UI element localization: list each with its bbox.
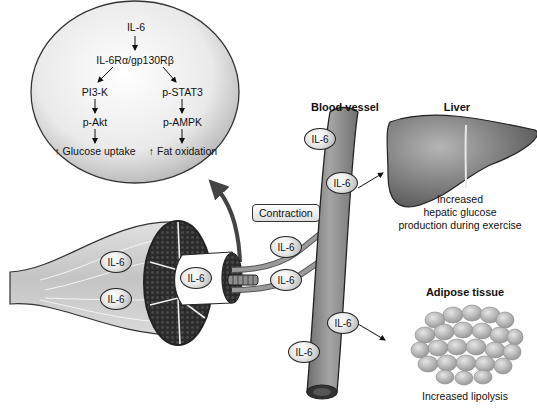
il6-vessel-1: IL-6 bbox=[304, 128, 336, 150]
il6-vessel-2: IL-6 bbox=[326, 172, 358, 194]
arrow-to-adipose bbox=[358, 324, 385, 340]
signal-pampk: p-AMPK bbox=[155, 116, 210, 128]
signal-pakt: p-Akt bbox=[70, 116, 120, 128]
signal-pstat3: p-STAT3 bbox=[155, 86, 210, 98]
signal-il6: IL-6 bbox=[121, 21, 151, 33]
liver-effect-3: production during exercise bbox=[390, 219, 530, 231]
adipose-effect: Increased lipolysis bbox=[410, 390, 520, 402]
liver-effect-2: hepatic glucose bbox=[410, 206, 510, 218]
blood-vessel-label: Blood vessel bbox=[305, 101, 385, 113]
il6-fiber: IL-6 bbox=[180, 267, 212, 289]
signal-glucose-uptake: ↑ Glucose uptake bbox=[50, 145, 140, 157]
contraction-label: Contraction bbox=[252, 204, 320, 222]
liver-effect-1: Increased bbox=[420, 193, 500, 205]
il6-vessel-3: IL-6 bbox=[327, 312, 359, 334]
arrow-to-liver bbox=[358, 173, 383, 188]
liver-label: Liver bbox=[437, 101, 477, 113]
signal-pi3k: PI3-K bbox=[70, 86, 120, 98]
signal-arrow bbox=[214, 185, 240, 262]
il6-muscle-1: IL-6 bbox=[100, 251, 132, 273]
signal-receptor: IL-6Rα/gp130Rβ bbox=[85, 54, 185, 66]
il6-capillary-1: IL-6 bbox=[270, 236, 302, 258]
il6-muscle-2: IL-6 bbox=[100, 288, 132, 310]
adipose-cluster bbox=[411, 305, 523, 385]
signal-fat-oxidation: ↑ Fat oxidation bbox=[143, 145, 223, 157]
adipose-label: Adipose tissue bbox=[415, 286, 515, 298]
il6-capillary-2: IL-6 bbox=[270, 269, 302, 291]
il6-vessel-4: IL-6 bbox=[288, 341, 320, 363]
